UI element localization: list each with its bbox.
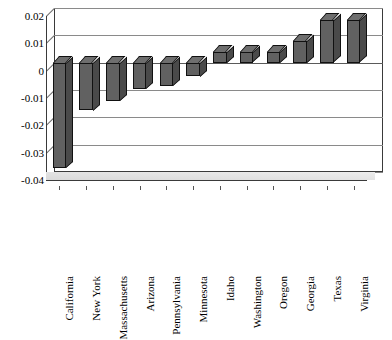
x-axis-category-label: Washington (252, 276, 263, 328)
x-axis-category-label: Virginia (359, 276, 370, 312)
x-axis-tick (273, 186, 274, 190)
x-axis-tick (354, 186, 355, 190)
bar-side-face (334, 14, 341, 63)
x-axis-line (46, 180, 367, 181)
y-axis-tick-label: 0.02 (4, 11, 44, 22)
bar (106, 63, 119, 101)
bar-side-face (93, 56, 100, 110)
chart-floor (46, 172, 375, 180)
bar-front-face (240, 52, 253, 62)
bar-series (46, 16, 375, 180)
x-axis-tick (327, 186, 328, 190)
bar (186, 63, 199, 77)
bar-front-face (53, 63, 66, 168)
bar (53, 63, 66, 168)
x-axis-category-label: New York (91, 276, 102, 321)
y-axis-tick-label: 0.01 (4, 38, 44, 49)
bar-front-face (106, 63, 119, 101)
bar (240, 52, 253, 62)
x-axis-tick (86, 186, 87, 190)
bar (79, 63, 92, 111)
x-axis-tick (140, 186, 141, 190)
x-axis-category-label: California (64, 276, 75, 321)
bar (267, 52, 280, 63)
x-axis-tick (247, 186, 248, 190)
y-axis-tick-label: 0 (4, 66, 44, 77)
x-axis-category-label: Idaho (225, 276, 236, 301)
bar-side-face (360, 14, 367, 63)
bar-front-face (347, 20, 360, 62)
bar (347, 20, 360, 62)
x-axis-tick (300, 186, 301, 190)
bar (320, 20, 333, 62)
y-axis-tick-label: -0.03 (4, 148, 44, 159)
bar-front-face (79, 63, 92, 111)
bar-side-face (66, 56, 73, 168)
x-axis-category-label: Pennsylvania (171, 276, 182, 335)
bar-front-face (320, 20, 333, 62)
x-axis-category-label: Texas (332, 276, 343, 302)
bar-front-face (160, 63, 173, 86)
x-axis-tick (59, 186, 60, 190)
x-axis-tick (113, 186, 114, 190)
bar (160, 63, 173, 86)
x-axis-labels: CaliforniaNew YorkMassachusettsArizonaPe… (46, 186, 386, 278)
bar (213, 52, 226, 63)
x-axis-category-label: Massachusetts (118, 276, 129, 340)
x-axis-category-label: Minnesota (198, 276, 209, 322)
bar-front-face (293, 41, 306, 63)
y-axis-tick-label: -0.01 (4, 93, 44, 104)
y-axis-labels: 0.020.010-0.01-0.02-0.03-0.04 (0, 0, 44, 200)
bar-front-face (186, 63, 199, 77)
bar (293, 41, 306, 63)
bar (133, 63, 146, 89)
bar-side-face (120, 56, 127, 101)
x-axis-category-label: Georgia (305, 276, 316, 311)
bar-front-face (133, 63, 146, 89)
x-axis-tick (193, 186, 194, 190)
x-axis-tick (166, 186, 167, 190)
x-axis-category-label: Oregon (278, 276, 289, 309)
gridline (54, 8, 383, 9)
plot-area (46, 16, 375, 180)
x-axis-category-label: Arizona (145, 276, 156, 311)
y-axis-tick-label: -0.04 (4, 175, 44, 186)
bar-front-face (213, 52, 226, 63)
bar-front-face (267, 52, 280, 63)
y-axis-tick-label: -0.02 (4, 120, 44, 131)
x-axis-tick (220, 186, 221, 190)
